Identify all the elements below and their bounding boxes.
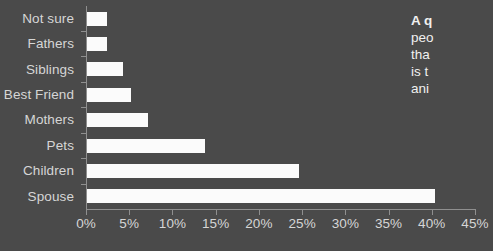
category-label: Pets bbox=[0, 133, 80, 158]
bar bbox=[87, 37, 107, 51]
bar bbox=[87, 12, 107, 26]
x-axis-label: 30% bbox=[332, 217, 359, 231]
x-axis-ticks bbox=[86, 209, 475, 215]
bar-row bbox=[87, 133, 475, 158]
caption-line: ani bbox=[411, 80, 493, 97]
bar bbox=[87, 62, 123, 76]
x-axis-label: 10% bbox=[159, 217, 186, 231]
caption-text: A q peo tha is t ani bbox=[411, 12, 493, 97]
x-axis-tick bbox=[302, 209, 303, 215]
y-axis-tick bbox=[81, 56, 86, 57]
x-axis-tick bbox=[86, 209, 87, 215]
x-axis-label: 45% bbox=[461, 217, 488, 231]
category-label: Not sure bbox=[0, 6, 80, 31]
y-axis-tick bbox=[81, 107, 86, 108]
x-axis-label: 40% bbox=[418, 217, 445, 231]
y-axis-tick bbox=[81, 133, 86, 134]
category-axis-labels: Not sure Fathers Siblings Best Friend Mo… bbox=[0, 6, 80, 209]
x-axis-tick bbox=[172, 209, 173, 215]
bar-row bbox=[87, 108, 475, 133]
caption-line: A q bbox=[411, 12, 493, 29]
bar bbox=[87, 113, 148, 127]
x-axis-label: 0% bbox=[76, 217, 96, 231]
x-axis-tick bbox=[389, 209, 390, 215]
x-axis-tick bbox=[129, 209, 130, 215]
x-axis-tick bbox=[345, 209, 346, 215]
category-label: Best Friend bbox=[0, 82, 80, 107]
bar bbox=[87, 189, 435, 203]
caption-line: tha bbox=[411, 46, 493, 63]
x-axis-labels: 0%5%10%15%20%25%30%35%40%45% bbox=[86, 217, 475, 237]
bar bbox=[87, 139, 205, 153]
y-axis-tick bbox=[81, 184, 86, 185]
category-label: Fathers bbox=[0, 31, 80, 56]
category-label: Mothers bbox=[0, 108, 80, 133]
bar bbox=[87, 164, 299, 178]
caption-line: is t bbox=[411, 63, 493, 80]
y-axis-tick bbox=[81, 31, 86, 32]
category-label: Siblings bbox=[0, 57, 80, 82]
bar-row bbox=[87, 184, 475, 209]
x-axis-label: 20% bbox=[245, 217, 272, 231]
x-axis-label: 15% bbox=[202, 217, 229, 231]
x-axis-label: 25% bbox=[288, 217, 315, 231]
x-axis-tick bbox=[432, 209, 433, 215]
x-axis-label: 5% bbox=[119, 217, 139, 231]
x-axis-tick bbox=[475, 209, 476, 215]
y-axis-tick bbox=[81, 82, 86, 83]
caption-line: peo bbox=[411, 29, 493, 46]
x-axis-tick bbox=[216, 209, 217, 215]
category-label: Children bbox=[0, 158, 80, 183]
x-axis-label: 35% bbox=[375, 217, 402, 231]
bar bbox=[87, 88, 131, 102]
bar-row bbox=[87, 158, 475, 183]
x-axis-tick bbox=[259, 209, 260, 215]
y-axis-tick bbox=[81, 158, 86, 159]
category-label: Spouse bbox=[0, 184, 80, 209]
